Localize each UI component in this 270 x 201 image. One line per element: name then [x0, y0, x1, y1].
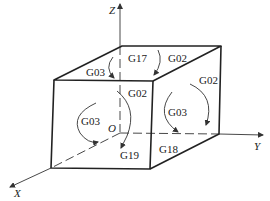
- side-plane-label-g18: G18: [159, 143, 178, 155]
- top-left-label-g03: G03: [86, 66, 105, 78]
- side-top-label-g02: G02: [199, 74, 218, 86]
- x-axis-line: [10, 168, 51, 187]
- labels: Z Y X O G17 G03 G02 G02 G03 G19 G02 G03 …: [13, 4, 262, 199]
- diagram-svg: Z Y X O G17 G03 G02 G02 G03 G19 G02 G03 …: [0, 0, 270, 201]
- z-axis-label: Z: [109, 4, 116, 16]
- y-axis-label: Y: [254, 140, 262, 152]
- front-plane-label-g19: G19: [120, 149, 139, 161]
- top-g02-arc: [154, 50, 160, 75]
- top-g03-arc: [109, 57, 114, 78]
- x-axis-hidden: [51, 133, 120, 168]
- y-axis-hidden: [120, 133, 219, 134]
- plane-selection-diagram: Z Y X O G17 G03 G02 G02 G03 G19 G02 G03 …: [0, 0, 270, 201]
- side-center-label-g03: G03: [168, 106, 187, 118]
- front-left-label-g03: G03: [81, 115, 100, 127]
- top-plane-label-g17: G17: [128, 52, 147, 64]
- side-g02-arc: [190, 84, 209, 125]
- top-right-label-g02: G02: [168, 52, 187, 64]
- y-axis-line: [219, 134, 263, 135]
- front-top-label-g02: G02: [128, 87, 147, 99]
- x-axis-label: X: [13, 187, 22, 199]
- origin-label: O: [108, 122, 116, 134]
- front-g02-arc: [117, 91, 131, 148]
